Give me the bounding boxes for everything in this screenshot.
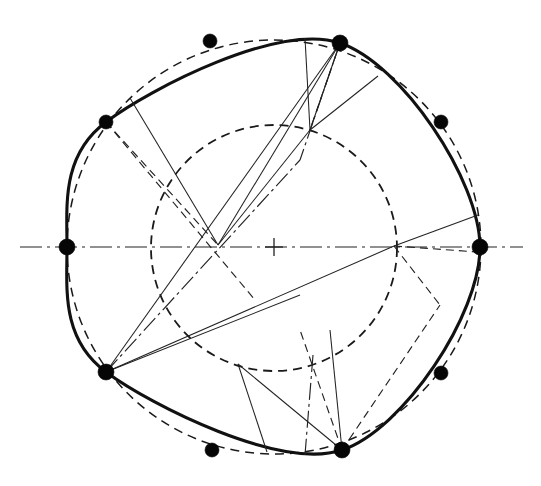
- marker-point-top-right[interactable]: [332, 35, 348, 51]
- marker-point-lower-left[interactable]: [98, 364, 114, 380]
- geometric-construction-figure: Rotor geometric construction diagram Tec…: [0, 0, 541, 486]
- ray-lefthub-to-topright: [218, 43, 340, 245]
- spoke-tophub-to-profile-top: [305, 38, 310, 130]
- dash-upperleft-to-lefthub: [106, 122, 218, 245]
- diagram-root: Rotor geometric construction diagram Tec…: [0, 0, 541, 486]
- chord-lowerleft-to-topright: [106, 43, 340, 372]
- dash-righthub-to-lowerprofile: [394, 246, 440, 305]
- dash-upperleft-to-innerarc: [106, 122, 255, 300]
- marker-point-lower-right[interactable]: [434, 366, 448, 380]
- chord-lefthub-to-tophub: [218, 130, 310, 245]
- center-cross-group: [265, 238, 283, 256]
- marker-point-upper-right[interactable]: [434, 115, 448, 129]
- solid-construction-lines-group: [106, 38, 478, 452]
- chain-lowerleft-to-upperright: [106, 160, 300, 372]
- marker-point-upper-left[interactable]: [99, 115, 113, 129]
- marker-point-top-left[interactable]: [203, 34, 217, 48]
- ray-righthub-to-rightedge: [394, 215, 478, 246]
- marker-point-bottom-left[interactable]: [205, 443, 219, 457]
- spoke-tophub-to-upperright: [310, 76, 378, 130]
- marker-point-bottom-right[interactable]: [334, 442, 350, 458]
- chain-bottom-vertical: [305, 355, 313, 455]
- chord-lefthub-to-upperleft: [130, 98, 218, 245]
- chord-lowerleft-to-righthub: [106, 246, 394, 372]
- marker-point-left[interactable]: [59, 239, 75, 255]
- chord-lowerleft-to-midright: [106, 295, 300, 372]
- marker-point-right[interactable]: [472, 239, 488, 255]
